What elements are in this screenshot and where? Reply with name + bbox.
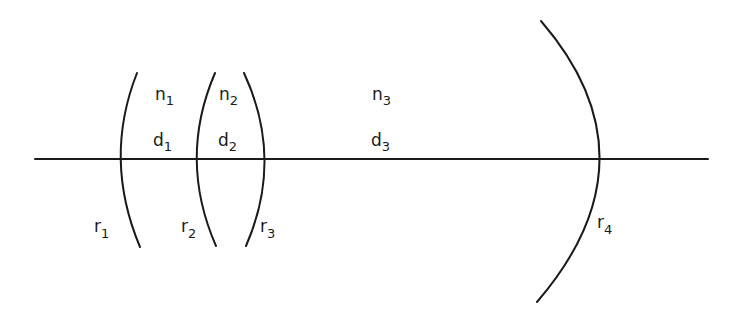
svg-text:d2: d2 <box>218 130 237 154</box>
svg-text:r1: r1 <box>94 216 109 241</box>
label-r2: r2 <box>181 216 196 241</box>
svg-text:r2: r2 <box>181 216 196 241</box>
label-r3: r3 <box>260 216 275 241</box>
label-r1: r1 <box>94 216 109 241</box>
surface-r4-curve <box>537 21 600 302</box>
label-d1: d1 <box>153 130 172 154</box>
label-n1: n1 <box>155 84 174 108</box>
label-d2: d2 <box>218 130 237 154</box>
svg-text:d1: d1 <box>153 130 172 154</box>
label-d3: d3 <box>371 130 390 154</box>
label-n3: n3 <box>372 84 391 108</box>
svg-text:n3: n3 <box>372 84 391 108</box>
label-r4: r4 <box>597 212 612 237</box>
svg-text:r4: r4 <box>597 212 612 237</box>
svg-text:n2: n2 <box>219 84 238 108</box>
label-n2: n2 <box>219 84 238 108</box>
svg-text:r3: r3 <box>260 216 275 241</box>
svg-text:d3: d3 <box>371 130 390 154</box>
lens-system-diagram: n1 n2 n3 d1 d2 d3 r1 r2 r3 r4 <box>0 0 737 312</box>
svg-text:n1: n1 <box>155 84 174 108</box>
